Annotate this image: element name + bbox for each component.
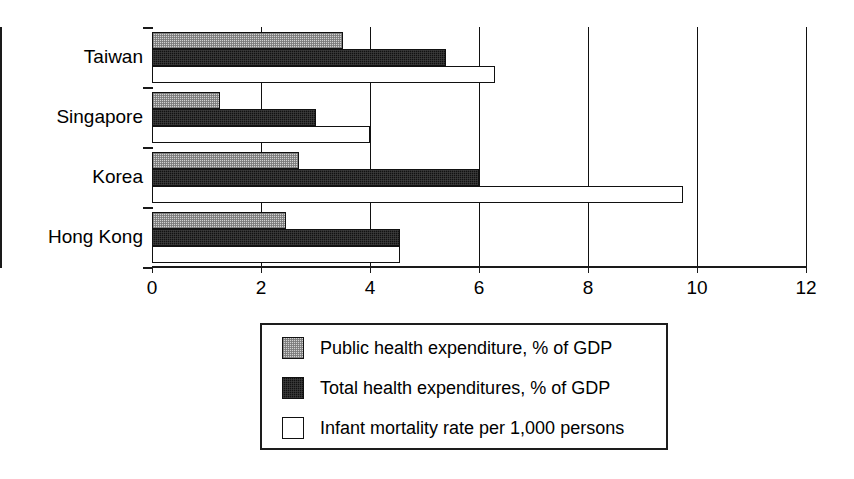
x-tick-label-4: 4 [365, 277, 376, 299]
gridline-x-12 [806, 27, 807, 267]
bar-singapore-public-health [152, 92, 220, 109]
bar-korea-public-health [152, 152, 299, 169]
bar-singapore-total-health [152, 109, 316, 126]
y-axis-label-korea: Korea [92, 166, 143, 188]
legend-swatch-total-icon [282, 377, 304, 399]
legend-swatch-infant-icon [282, 417, 304, 439]
bar-chart: TaiwanSingaporeKoreaHong Kong 024681012 … [0, 0, 854, 479]
bars-layer [152, 27, 806, 267]
legend-item-total-health: Total health expenditures, % of GDP [282, 375, 610, 401]
x-tick-12 [806, 266, 807, 273]
bar-korea-total-health [152, 169, 479, 186]
bar-taiwan-public-health [152, 32, 343, 49]
bar-taiwan-infant-mortality [152, 66, 495, 83]
bar-hong-kong-public-health [152, 212, 286, 229]
y-axis-label-taiwan: Taiwan [84, 46, 143, 68]
legend-item-infant-mortality: Infant mortality rate per 1,000 persons [282, 415, 624, 441]
bar-singapore-infant-mortality [152, 126, 370, 143]
legend-swatch-public-icon [282, 337, 304, 359]
bar-korea-infant-mortality [152, 186, 683, 203]
x-tick-6 [479, 266, 480, 273]
legend-item-public-health: Public health expenditure, % of GDP [282, 335, 612, 361]
x-tick-8 [588, 266, 589, 273]
legend-label-infant: Infant mortality rate per 1,000 persons [320, 417, 624, 439]
chart-legend: Public health expenditure, % of GDP Tota… [260, 323, 668, 450]
y-axis-label-singapore: Singapore [56, 106, 143, 128]
x-tick-2 [261, 266, 262, 273]
legend-label-total: Total health expenditures, % of GDP [320, 377, 610, 399]
x-tick-label-2: 2 [256, 277, 267, 299]
legend-label-public: Public health expenditure, % of GDP [320, 337, 612, 359]
bar-hong-kong-infant-mortality [152, 246, 400, 263]
x-tick-label-10: 10 [686, 277, 707, 299]
x-tick-0 [152, 266, 153, 273]
bar-taiwan-total-health [152, 49, 446, 66]
x-tick-label-12: 12 [795, 277, 816, 299]
bar-hong-kong-total-health [152, 229, 400, 246]
x-tick-label-0: 0 [147, 277, 158, 299]
x-tick-4 [370, 266, 371, 273]
y-axis-label-hong-kong: Hong Kong [48, 226, 143, 248]
x-tick-label-8: 8 [583, 277, 594, 299]
y-axis-category-labels: TaiwanSingaporeKoreaHong Kong [0, 0, 143, 479]
x-tick-label-6: 6 [474, 277, 485, 299]
x-tick-10 [697, 266, 698, 273]
